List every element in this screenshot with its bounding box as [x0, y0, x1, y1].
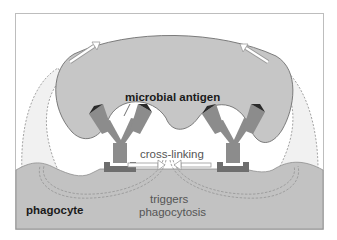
phagocytosis-diagram: microbial antigen cross-linking triggers…	[0, 0, 337, 240]
microbe	[56, 35, 293, 142]
label-phagocytosis: phagocytosis	[139, 206, 206, 218]
label-cross-linking: cross-linking	[140, 148, 204, 160]
label-microbial-antigen: microbial antigen	[125, 91, 220, 103]
label-triggers: triggers	[150, 193, 189, 205]
label-phagocyte: phagocyte	[26, 204, 84, 216]
